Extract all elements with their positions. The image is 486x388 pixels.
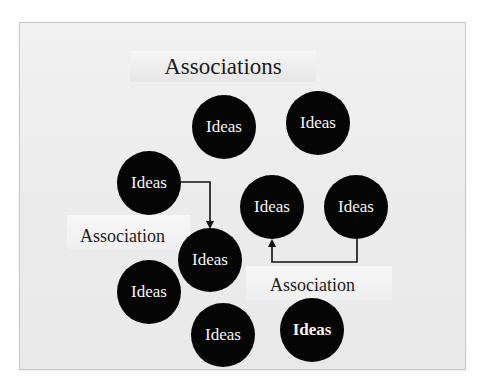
idea-node-2: Ideas <box>286 91 350 155</box>
association-label-left: Association <box>80 226 165 247</box>
idea-label: Ideas <box>131 282 167 302</box>
idea-label: Ideas <box>192 250 228 270</box>
idea-node-3: Ideas <box>117 151 181 215</box>
idea-label: Ideas <box>300 113 336 133</box>
idea-node-6: Ideas <box>191 303 255 367</box>
idea-node-9: Ideas <box>324 175 388 239</box>
idea-label: Ideas <box>131 173 167 193</box>
idea-label: Ideas <box>206 117 242 137</box>
association-label-right: Association <box>270 275 355 296</box>
idea-label: Ideas <box>338 197 374 217</box>
idea-node-8: Ideas <box>240 175 304 239</box>
idea-node-4: Ideas <box>178 228 242 292</box>
idea-node-1: Ideas <box>192 95 256 159</box>
arrow-down-icon <box>181 182 210 222</box>
idea-label: Ideas <box>254 197 290 217</box>
idea-label: Ideas <box>293 320 332 340</box>
arrow-up-icon <box>272 239 357 262</box>
idea-node-7-bold: Ideas <box>280 298 344 362</box>
idea-label: Ideas <box>205 325 241 345</box>
idea-node-5: Ideas <box>117 260 181 324</box>
